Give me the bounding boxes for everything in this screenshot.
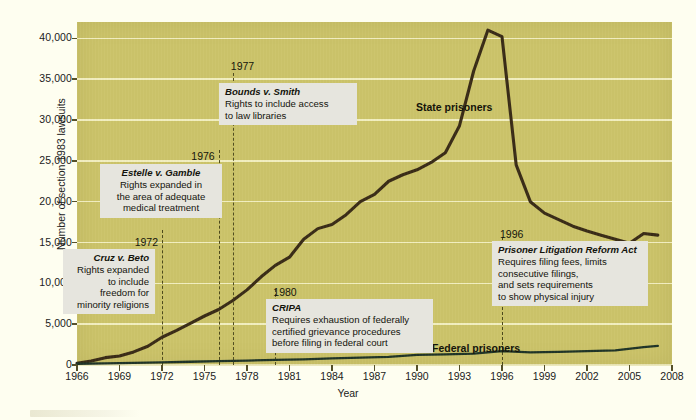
y-axis-tick-label: 5,000: [10, 317, 72, 329]
x-axis-tick-mark: [161, 365, 162, 371]
x-axis-tick-label: 2005: [618, 370, 641, 382]
y-axis-tick-mark: [72, 323, 77, 325]
x-axis-tick-mark: [501, 365, 502, 371]
y-axis-tick-label: 25,000: [10, 154, 72, 166]
caption-remnant: [30, 410, 140, 417]
y-axis-tick-label: 20,000: [10, 195, 72, 207]
y-axis-tick-mark: [72, 242, 77, 244]
x-axis-tick-label: 1990: [405, 370, 428, 382]
x-axis-tick-mark: [671, 365, 672, 371]
annotation-body-line: Requires exhaustion of federally: [272, 314, 427, 326]
x-axis-tick-label: 1969: [108, 370, 131, 382]
annotation-body-line: medical treatment: [106, 202, 216, 214]
event-year-label: 1977: [231, 60, 254, 72]
annotation-body-line: Rights expanded: [69, 264, 149, 276]
annotation-body-line: to law libraries: [225, 110, 351, 122]
x-axis-tick-label: 2008: [660, 370, 683, 382]
x-axis-tick-mark: [586, 365, 587, 371]
chart-figure: Number of section 1983 lawsuits State pr…: [0, 0, 696, 420]
annotation-box: Cruz v. BetoRights expandedto includefre…: [63, 249, 155, 314]
annotation-title: Estelle v. Gamble: [106, 167, 216, 179]
x-axis-tick-mark: [119, 365, 120, 371]
y-axis-tick-label: 40,000: [10, 31, 72, 43]
annotation-title: CRIPA: [272, 302, 427, 314]
y-axis-tick-mark: [72, 38, 77, 40]
annotation-box: Bounds v. SmithRights to include accesst…: [219, 83, 357, 125]
annotation-title: Bounds v. Smith: [225, 86, 351, 98]
annotation-box: Estelle v. GambleRights expanded inthe a…: [100, 164, 222, 218]
event-year-label: 1972: [135, 236, 158, 248]
x-axis-label: Year: [0, 387, 696, 399]
annotation-body-line: to show physical injury: [498, 291, 642, 303]
y-axis-tick-label: 15,000: [10, 236, 72, 248]
state-prisoners-series-label: State prisoners: [416, 101, 492, 113]
annotation-title: Cruz v. Beto: [69, 252, 149, 264]
x-axis-tick-mark: [289, 365, 290, 371]
event-year-label: 1996: [500, 228, 523, 240]
x-axis-tick-mark: [629, 365, 630, 371]
x-axis-tick-mark: [246, 365, 247, 371]
x-axis-tick-mark: [416, 365, 417, 371]
x-axis-tick-mark: [544, 365, 545, 371]
annotation-body-line: Rights to include access: [225, 98, 351, 110]
x-axis-tick-label: 2002: [575, 370, 598, 382]
x-axis-tick-label: 1966: [65, 370, 88, 382]
x-axis-tick-mark: [204, 365, 205, 371]
annotation-body-line: Requires filing fees, limits: [498, 256, 642, 268]
event-year-label: 1976: [191, 150, 214, 162]
annotation-body-line: Rights expanded in: [106, 179, 216, 191]
event-year-label: 1980: [273, 286, 296, 298]
x-axis-tick-label: 1972: [150, 370, 173, 382]
annotation-body-line: to include: [69, 276, 149, 288]
annotation-box: CRIPARequires exhaustion of federallycer…: [266, 299, 433, 353]
x-axis-tick-label: 1978: [235, 370, 258, 382]
annotation-title: Prisoner Litigation Reform Act: [498, 244, 642, 256]
x-axis-tick-mark: [459, 365, 460, 371]
x-axis-tick-mark: [331, 365, 332, 371]
annotation-body-line: before filing in federal court: [272, 337, 427, 349]
x-axis-tick-label: 1999: [533, 370, 556, 382]
x-axis-tick-label: 1975: [193, 370, 216, 382]
annotation-body-line: freedom for: [69, 287, 149, 299]
x-axis-tick-label: 1984: [320, 370, 343, 382]
x-axis-tick-mark: [374, 365, 375, 371]
y-axis-tick-mark: [72, 78, 77, 80]
annotation-body-line: and sets requirements: [498, 279, 642, 291]
y-axis-tick-mark: [72, 160, 77, 162]
x-axis-tick-label: 1996: [490, 370, 513, 382]
x-axis-tick-label: 1981: [278, 370, 301, 382]
y-axis-tick-mark: [72, 201, 77, 203]
x-axis-tick-label: 1987: [363, 370, 386, 382]
annotation-body-line: the area of adequate: [106, 191, 216, 203]
annotation-body-line: minority religions: [69, 299, 149, 311]
federal-prisoners-series-label: Federal prisoners: [432, 342, 520, 354]
y-axis-tick-mark: [72, 119, 77, 121]
annotation-box: Prisoner Litigation Reform ActRequires f…: [492, 241, 648, 306]
y-axis-tick-label: 30,000: [10, 113, 72, 125]
y-axis-tick-label: 35,000: [10, 72, 72, 84]
x-axis-tick-label: 1993: [448, 370, 471, 382]
annotation-body-line: certified grievance procedures: [272, 326, 427, 338]
y-axis-tick-label: 0: [10, 358, 72, 370]
x-axis-tick-mark: [76, 365, 77, 371]
annotation-body-line: consecutive filings,: [498, 268, 642, 280]
